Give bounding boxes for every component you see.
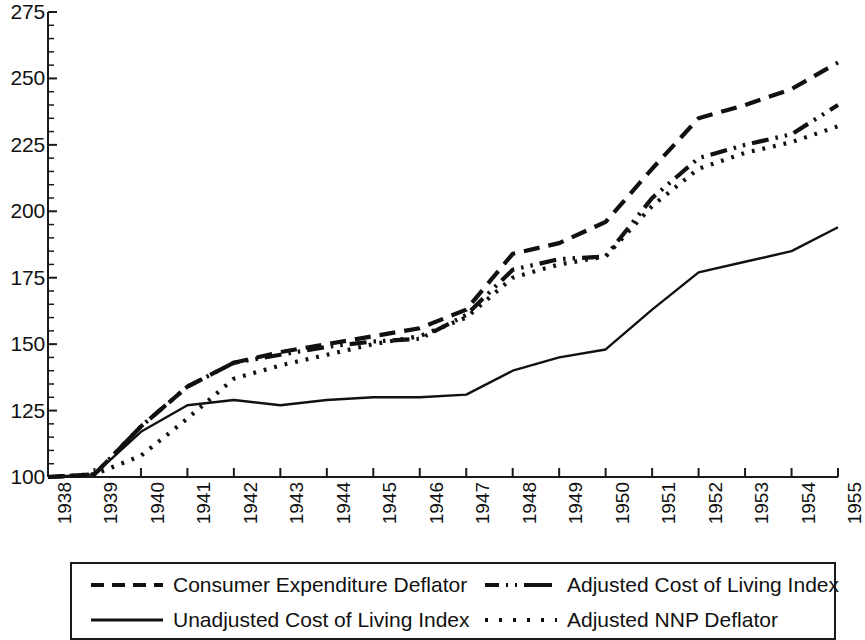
series-line-consumer-expenditure-deflator [48, 62, 838, 477]
x-tick-label: 1942 [241, 482, 260, 524]
series-line-adjusted-cost-of-living-index [48, 105, 838, 477]
x-tick-label: 1940 [148, 482, 167, 524]
y-tick-label: 250 [1, 67, 45, 88]
legend-entry-unadjusted-cost-of-living-index: Unadjusted Cost of Living Index [90, 603, 470, 637]
legend-swatch-dash-dot [484, 577, 558, 593]
plot-area: 100125150175200225250275 [0, 0, 844, 500]
x-tick-label: 1945 [380, 482, 399, 524]
legend-label: Unadjusted Cost of Living Index [173, 609, 470, 631]
legend-swatch-solid [90, 612, 164, 628]
y-tick-label: 225 [1, 134, 45, 155]
series-paths [48, 62, 838, 477]
x-tick-label: 1949 [566, 482, 585, 524]
legend-label: Adjusted Cost of Living Index [567, 574, 839, 596]
x-tick-label: 1943 [287, 482, 306, 524]
x-tick-label: 1941 [194, 482, 213, 524]
chart-legend: Consumer Expenditure Deflator Adjusted C… [70, 562, 836, 640]
legend-swatch-dotted [484, 612, 558, 628]
x-tick-label: 1939 [101, 482, 120, 524]
series-line-unadjusted-cost-of-living-index [48, 227, 838, 477]
legend-label: Consumer Expenditure Deflator [173, 574, 467, 596]
x-tick-label: 1952 [706, 482, 725, 524]
series-line-adjusted-nnp-deflator [48, 126, 838, 477]
x-tick-label: 1953 [752, 482, 771, 524]
legend-row: Consumer Expenditure Deflator Adjusted C… [72, 568, 834, 602]
legend-entry-adjusted-nnp-deflator: Adjusted NNP Deflator [484, 603, 778, 637]
y-tick-label: 275 [1, 1, 45, 22]
legend-entry-consumer-expenditure-deflator: Consumer Expenditure Deflator [90, 568, 467, 602]
x-tick-label: 1955 [845, 482, 864, 524]
legend-swatch-dashed [90, 577, 164, 593]
y-tick-label: 200 [1, 200, 45, 221]
plot-svg [0, 0, 844, 500]
x-tick-label: 1950 [613, 482, 632, 524]
x-tick-label: 1951 [659, 482, 678, 524]
y-tick-label: 150 [1, 333, 45, 354]
x-tick-label: 1946 [427, 482, 446, 524]
legend-label: Adjusted NNP Deflator [567, 609, 778, 631]
x-axis-tick-labels: 1938193919401941194219431944194519461947… [0, 482, 844, 552]
legend-row: Unadjusted Cost of Living Index Adjusted… [72, 603, 834, 637]
y-tick-label: 125 [1, 400, 45, 421]
x-tick-label: 1947 [473, 482, 492, 524]
x-tick-label: 1954 [799, 482, 818, 524]
y-axis-tick-labels: 100125150175200225250275 [0, 0, 45, 500]
x-tick-label: 1948 [520, 482, 539, 524]
legend-entry-adjusted-cost-of-living-index: Adjusted Cost of Living Index [484, 568, 839, 602]
x-tick-label: 1938 [55, 482, 74, 524]
y-tick-label: 175 [1, 267, 45, 288]
x-tick-label: 1944 [334, 482, 353, 524]
